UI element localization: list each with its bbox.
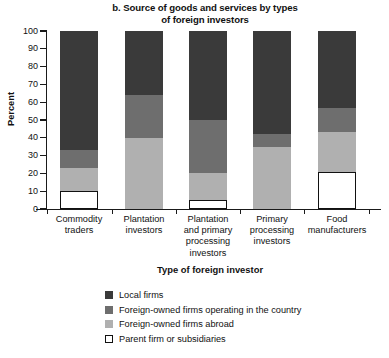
- x-axis-line: [36, 209, 381, 210]
- y-axis-tick-label: 60: [14, 98, 38, 107]
- bar-1: [60, 31, 98, 209]
- category-label-line: investors: [172, 248, 244, 259]
- bar-segment: [189, 31, 227, 120]
- y-axis-tick-label: 80: [14, 62, 38, 71]
- bar-segment: [189, 200, 227, 209]
- category-label-5: Foodmanufacturers: [301, 214, 373, 236]
- category-label-1: Commoditytraders: [43, 214, 115, 236]
- bar-segment: [253, 134, 291, 146]
- legend-label: Foreign-owned firms operating in the cou…: [119, 305, 301, 315]
- y-axis-tick-label: 10: [14, 187, 38, 196]
- y-axis-tick-label: 0: [14, 205, 38, 214]
- y-axis-tick: [40, 48, 46, 49]
- category-label-3: Plantationand primaryprocessinginvestors: [172, 214, 244, 259]
- legend-label: Parent firm or subsidiaries: [119, 334, 226, 344]
- category-label-line: investors: [108, 225, 180, 236]
- legend-label: Local firms: [119, 290, 163, 300]
- y-axis-tick-label: 50: [14, 116, 38, 125]
- bar-segment: [60, 31, 98, 150]
- bar-4: [253, 31, 291, 209]
- y-axis-tick: [40, 119, 46, 120]
- bar-5: [318, 31, 356, 209]
- legend-swatch-icon: [105, 320, 113, 328]
- y-axis-tick-label: 40: [14, 133, 38, 142]
- category-label-line: investors: [236, 236, 308, 247]
- y-axis-tick: [40, 173, 46, 174]
- y-axis-tick: [40, 84, 46, 85]
- chart-title-line-1: b. Source of goods and services by types: [40, 2, 370, 14]
- x-axis-title: Type of foreign investor: [47, 264, 373, 275]
- y-axis-tick: [40, 30, 46, 31]
- category-label-line: Commodity: [43, 214, 115, 225]
- plot-area: [47, 31, 373, 209]
- bar-segment: [318, 132, 356, 171]
- legend-swatch-icon: [105, 291, 113, 299]
- bar-segment: [189, 173, 227, 200]
- legend-item-2: Foreign-owned firms operating in the cou…: [105, 303, 375, 318]
- y-axis-tick: [40, 155, 46, 156]
- category-label-line: manufacturers: [301, 225, 373, 236]
- bar-segment: [125, 31, 163, 95]
- y-axis-tick: [40, 191, 46, 192]
- legend-label: Foreign-owned firms abroad: [119, 319, 234, 329]
- legend-item-4: Parent firm or subsidiaries: [105, 332, 375, 347]
- bar-2: [125, 31, 163, 209]
- bar-segment: [253, 147, 291, 209]
- bar-segment: [318, 108, 356, 133]
- category-label-line: Primary: [236, 214, 308, 225]
- bar-segment: [318, 172, 356, 209]
- y-axis-tick: [40, 208, 46, 209]
- category-label-line: and primary: [172, 225, 244, 236]
- category-label-2: Plantationinvestors: [108, 214, 180, 236]
- chart-legend: Local firmsForeign-owned firms operating…: [105, 288, 375, 346]
- y-axis-tick: [40, 102, 46, 103]
- y-axis-tick: [40, 137, 46, 138]
- category-label-line: traders: [43, 225, 115, 236]
- bar-segment: [125, 138, 163, 209]
- legend-item-3: Foreign-owned firms abroad: [105, 317, 375, 332]
- y-axis-tick-label: 90: [14, 44, 38, 53]
- category-label-line: Plantation: [172, 214, 244, 225]
- category-label-line: Plantation: [108, 214, 180, 225]
- bar-segment: [60, 191, 98, 209]
- bar-3: [189, 31, 227, 209]
- bar-segment: [253, 31, 291, 134]
- category-label-line: Food: [301, 214, 373, 225]
- legend-swatch-icon: [105, 306, 113, 314]
- y-axis-tick-label: 30: [14, 151, 38, 160]
- category-label-4: Primaryprocessinginvestors: [236, 214, 308, 248]
- y-axis-tick-label: 20: [14, 169, 38, 178]
- y-axis-tick-label: 70: [14, 80, 38, 89]
- chart-title: b. Source of goods and services by types…: [40, 2, 370, 25]
- chart-title-line-2: of foreign investors: [40, 14, 370, 26]
- bar-segment: [60, 168, 98, 191]
- legend-item-1: Local firms: [105, 288, 375, 303]
- y-axis-tick-label: 100: [14, 27, 38, 36]
- bar-segment: [318, 31, 356, 108]
- bar-segment: [60, 150, 98, 168]
- category-label-line: processing: [236, 225, 308, 236]
- legend-swatch-icon: [105, 335, 113, 343]
- bar-segment: [189, 120, 227, 173]
- bar-segment: [125, 95, 163, 138]
- y-axis-tick: [40, 66, 46, 67]
- category-label-line: processing: [172, 236, 244, 247]
